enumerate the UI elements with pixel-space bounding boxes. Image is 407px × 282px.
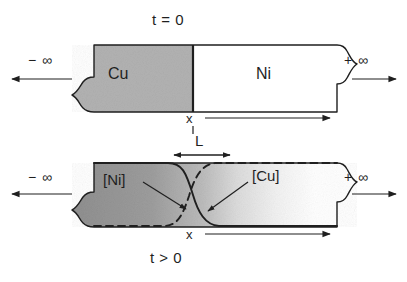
x-axis-label-top: x xyxy=(186,112,193,125)
cu-region-label: Cu xyxy=(108,66,128,82)
panel-bottom xyxy=(12,155,396,234)
left-infinity-label-bottom: − ∞ xyxy=(28,170,53,184)
cu-region-top xyxy=(72,45,193,112)
ni-concentration-label: [Ni] xyxy=(103,172,126,187)
panel-top xyxy=(12,45,396,134)
right-infinity-label-bottom: + ∞ xyxy=(344,170,369,184)
time-label-bottom: t > 0 xyxy=(150,250,182,265)
ni-region-top xyxy=(193,45,357,112)
diffusion-zone-label: L xyxy=(195,133,203,148)
left-infinity-label-top: − ∞ xyxy=(28,53,53,67)
ni-region-label: Ni xyxy=(256,66,271,82)
figure-canvas: t = 0 Cu Ni − ∞ + ∞ x L − ∞ + ∞ [Ni] [Cu… xyxy=(0,0,407,282)
time-label-top: t = 0 xyxy=(152,12,184,27)
diffusion-diagram-svg xyxy=(0,0,407,282)
x-axis-label-bottom: x xyxy=(186,228,193,241)
cu-concentration-label: [Cu] xyxy=(252,168,280,183)
right-infinity-label-top: + ∞ xyxy=(344,53,369,67)
